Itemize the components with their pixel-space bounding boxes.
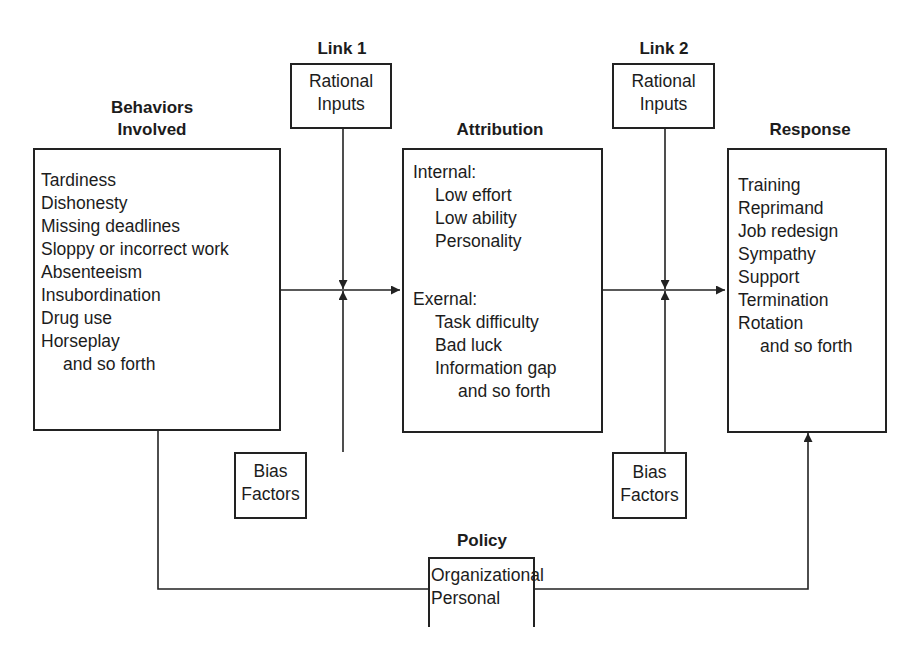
link2-bias-line1: Bias — [612, 461, 687, 484]
policy-item: Personal — [431, 587, 544, 610]
behavior-item: Insubordination — [41, 284, 229, 307]
attribution-internal-list: Internal: Low effort Low ability Persona… — [413, 161, 522, 253]
link2-rational-inputs-label: Rational Inputs — [612, 70, 715, 116]
attribution-item: Personality — [413, 230, 522, 253]
attribution-etc: and so forth — [413, 380, 557, 403]
attribution-external-label: Exernal: — [413, 288, 557, 311]
attribution-external-list: Exernal: Task difficulty Bad luck Inform… — [413, 288, 557, 403]
response-item: Rotation — [738, 312, 852, 335]
link1-rational-line1: Rational — [290, 70, 392, 93]
behavior-item: Missing deadlines — [41, 215, 229, 238]
response-title: Response — [760, 119, 860, 141]
behavior-item: Absenteeism — [41, 261, 229, 284]
response-item: Termination — [738, 289, 852, 312]
response-item: Job redesign — [738, 220, 852, 243]
behavior-item: Dishonesty — [41, 192, 229, 215]
link1-rational-line2: Inputs — [290, 93, 392, 116]
behaviors-title-line1: Behaviors — [82, 97, 222, 119]
behavior-item: Drug use — [41, 307, 229, 330]
link2-bias-line2: Factors — [612, 484, 687, 507]
attribution-title: Attribution — [430, 119, 570, 141]
attribution-item: Low effort — [413, 184, 522, 207]
behaviors-title: Behaviors Involved — [82, 97, 222, 141]
link1-bias-factors-label: Bias Factors — [234, 460, 307, 506]
response-item: Support — [738, 266, 852, 289]
link1-bias-line1: Bias — [234, 460, 307, 483]
behaviors-title-line2: Involved — [82, 119, 222, 141]
behavior-item: Tardiness — [41, 169, 229, 192]
response-list: Training Reprimand Job redesign Sympathy… — [738, 174, 852, 358]
link2-title: Link 2 — [622, 38, 706, 60]
behaviors-list: Tardiness Dishonesty Missing deadlines S… — [41, 169, 229, 376]
attribution-item: Information gap — [413, 357, 557, 380]
response-etc: and so forth — [738, 335, 852, 358]
link2-rational-line1: Rational — [612, 70, 715, 93]
behavior-item: Sloppy or incorrect work — [41, 238, 229, 261]
response-item: Training — [738, 174, 852, 197]
policy-title: Policy — [440, 530, 524, 552]
policy-item: Organizational — [431, 564, 544, 587]
attribution-item: Task difficulty — [413, 311, 557, 334]
policy-list: Organizational Personal — [431, 564, 544, 610]
response-item: Reprimand — [738, 197, 852, 220]
attribution-internal-label: Internal: — [413, 161, 522, 184]
link1-bias-line2: Factors — [234, 483, 307, 506]
behaviors-etc: and so forth — [41, 353, 229, 376]
link1-title: Link 1 — [300, 38, 384, 60]
attribution-item: Low ability — [413, 207, 522, 230]
link1-rational-inputs-label: Rational Inputs — [290, 70, 392, 116]
behavior-item: Horseplay — [41, 330, 229, 353]
link2-rational-line2: Inputs — [612, 93, 715, 116]
response-item: Sympathy — [738, 243, 852, 266]
attribution-item: Bad luck — [413, 334, 557, 357]
link2-bias-factors-label: Bias Factors — [612, 461, 687, 507]
